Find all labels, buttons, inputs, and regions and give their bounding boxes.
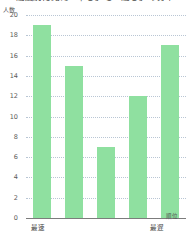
y-axis-tick-label: 0 (0, 215, 18, 222)
bar-chart: 速度別に見た「早さ」と「速さ」の分布 人数 20181614121086420 … (0, 0, 190, 240)
gridline (26, 15, 186, 16)
x-axis-label: 順位 (166, 213, 178, 219)
plot-area: 20181614121086420 (26, 15, 186, 218)
y-axis-tick-label: 2 (0, 194, 18, 201)
y-axis-tick-label: 10 (0, 113, 18, 120)
x-axis-annotation-fastest: 最速 (31, 224, 45, 232)
x-axis-line (26, 218, 186, 219)
chart-title: 速度別に見た「早さ」と「速さ」の分布 (0, 0, 190, 2)
y-axis-tick-label: 14 (0, 72, 18, 79)
y-axis-tick-label: 8 (0, 133, 18, 140)
bar (97, 147, 115, 218)
y-axis-tick-label: 20 (0, 12, 18, 19)
y-axis-tick-label: 16 (0, 52, 18, 59)
bar (161, 45, 179, 218)
y-axis-tick-label: 12 (0, 93, 18, 100)
x-axis-annotation-slowest: 最遅 (150, 224, 164, 232)
y-axis-tick-label: 18 (0, 32, 18, 39)
y-axis-tick-label: 4 (0, 174, 18, 181)
bar (129, 96, 147, 218)
y-axis-tick-label: 6 (0, 154, 18, 161)
bar (33, 25, 51, 218)
bar (65, 66, 83, 218)
